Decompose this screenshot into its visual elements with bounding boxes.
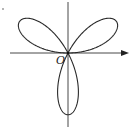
origin-label: O	[56, 55, 65, 66]
stray-dot	[2, 8, 4, 10]
origin-point	[67, 52, 70, 55]
x-axis-arrow-icon	[121, 50, 129, 56]
rose-curve-figure	[0, 0, 134, 129]
